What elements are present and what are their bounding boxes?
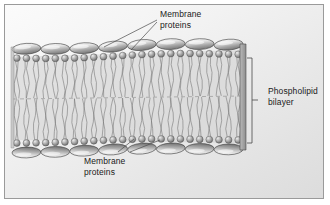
membrane-protein <box>41 146 70 157</box>
phospholipid-head <box>100 137 107 144</box>
phospholipid-head <box>62 139 69 146</box>
phospholipid-head <box>52 139 59 146</box>
membrane-cut-edge-left <box>11 47 14 148</box>
membrane-protein <box>185 38 214 50</box>
phospholipid-head <box>81 54 88 61</box>
phospholipid-head <box>110 53 117 60</box>
phospholipid-head <box>23 55 30 62</box>
membrane-protein <box>156 142 185 154</box>
phospholipid-head <box>187 136 194 143</box>
phospholipid-head <box>139 51 146 58</box>
label-top-line2: proteins <box>160 20 201 31</box>
phospholipid-head <box>196 136 203 143</box>
phospholipid-head <box>119 136 126 143</box>
phospholipid-head <box>225 136 232 143</box>
phospholipid-head <box>158 50 165 57</box>
membrane-protein <box>98 143 128 156</box>
phospholipid-head <box>177 136 184 143</box>
phospholipid-head <box>167 136 174 143</box>
phospholipid-head <box>187 50 194 57</box>
phospholipid-head <box>158 136 165 143</box>
label-right-line2: bilayer <box>268 97 318 108</box>
membrane-protein <box>70 42 99 54</box>
phospholipid-head <box>90 54 97 61</box>
phospholipid-head <box>225 51 232 58</box>
phospholipid-head <box>206 136 213 143</box>
phospholipid-head <box>129 136 136 143</box>
membrane-protein <box>214 144 243 155</box>
membrane-protein <box>12 147 41 159</box>
phospholipid-head <box>167 50 174 57</box>
phospholipid-head <box>13 55 20 62</box>
phospholipid-head <box>33 55 40 62</box>
phospholipid-head <box>42 55 49 62</box>
phospholipid-head <box>148 51 155 58</box>
membrane-protein <box>156 38 185 50</box>
phospholipid-head <box>148 136 155 143</box>
phospholipid-head <box>206 50 213 57</box>
phospholipid-head <box>100 53 107 60</box>
phospholipid-head <box>110 137 117 144</box>
phospholipid-head <box>177 50 184 57</box>
phospholipid-head <box>196 50 203 57</box>
membrane-protein <box>127 142 157 155</box>
phospholipid-head <box>52 55 59 62</box>
label-membrane-proteins-bottom: Membrane proteins <box>84 156 125 177</box>
phospholipid-head <box>81 138 88 145</box>
label-bottom-line1: Membrane <box>84 156 125 167</box>
label-right-line1: Phospholipid <box>268 86 318 97</box>
membrane-protein <box>70 145 99 157</box>
membrane-cut-edge-right <box>240 44 246 150</box>
phospholipid-head <box>119 52 126 59</box>
phospholipid-head <box>129 52 136 59</box>
membrane-protein <box>214 38 244 51</box>
membrane-body <box>12 50 243 143</box>
membrane-protein <box>98 40 128 53</box>
label-membrane-proteins-top: Membrane proteins <box>160 9 201 30</box>
membrane-protein <box>41 43 70 55</box>
phospholipid-head <box>62 55 69 62</box>
membrane-protein <box>185 143 214 154</box>
phospholipid-head <box>139 136 146 143</box>
label-top-line1: Membrane <box>160 9 201 20</box>
phospholipid-head <box>23 140 30 147</box>
phospholipid-bilayer-bracket <box>247 58 258 143</box>
phospholipid-head <box>216 136 223 143</box>
label-phospholipid-bilayer: Phospholipid bilayer <box>268 86 318 107</box>
phospholipid-head <box>42 139 49 146</box>
phospholipid-head <box>90 137 97 144</box>
phospholipid-head <box>216 51 223 58</box>
figure-container: Membrane proteins Membrane proteins Phos… <box>0 0 330 205</box>
phospholipid-head <box>71 138 78 145</box>
label-bottom-line2: proteins <box>84 167 125 178</box>
phospholipid-head <box>13 140 20 147</box>
membrane-protein <box>12 42 41 55</box>
phospholipid-head <box>33 139 40 146</box>
phospholipid-head <box>71 55 78 62</box>
